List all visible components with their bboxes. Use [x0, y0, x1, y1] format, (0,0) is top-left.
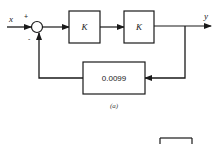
forward-block-2-label: K: [135, 22, 143, 32]
feedback-block-label: 0.0099: [102, 74, 127, 83]
input-label: x: [8, 14, 13, 24]
summing-junction: [32, 22, 43, 33]
output-label: y: [203, 11, 208, 21]
plus-sign: +: [24, 13, 28, 20]
minus-sign: -: [28, 35, 31, 42]
diagram-caption: (a): [110, 102, 119, 110]
forward-block-1-label: K: [80, 22, 88, 32]
block-diagram: x + - K K y 0.0099 (a): [0, 0, 216, 144]
